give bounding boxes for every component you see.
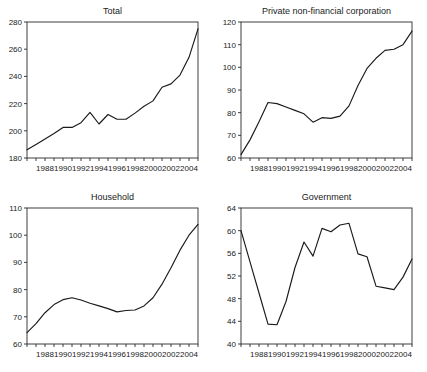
government-ytick-label: 52 — [227, 272, 236, 281]
private-non-financial-corporation-ytick-label: 60 — [227, 154, 236, 163]
household-xtick-label: 2000 — [144, 350, 162, 359]
private-non-financial-corporation-title: Private non-financial corporation — [262, 6, 391, 16]
household-ytick-label: 80 — [13, 286, 22, 295]
household-plot-frame — [27, 208, 198, 344]
total-ytick-label: 180 — [9, 154, 23, 163]
private-non-financial-corporation-ytick-label: 120 — [223, 18, 237, 27]
government-ytick-label: 40 — [227, 340, 236, 349]
household-xtick-label: 1996 — [108, 350, 126, 359]
total-ytick-label: 240 — [9, 72, 23, 81]
total-xtick-label: 1996 — [108, 164, 126, 173]
government-xtick-label: 1998 — [340, 350, 358, 359]
total-xtick-label: 1994 — [90, 164, 108, 173]
private-non-financial-corporation-data-line — [241, 31, 412, 155]
total-xtick-label: 1988 — [36, 164, 54, 173]
private-non-financial-corporation-ytick-label: 80 — [227, 109, 236, 118]
total-ytick-label: 200 — [9, 127, 23, 136]
household-ytick-label: 100 — [9, 231, 23, 240]
government-x-axis: 198819901992199419961998200020022004 — [241, 344, 412, 359]
total-xtick-label: 2002 — [162, 164, 180, 173]
government-y-axis: 40444852566064 — [227, 204, 241, 349]
household-data-line — [27, 224, 198, 332]
government-svg: Government404448525660641988199019921994… — [214, 186, 427, 372]
household-ytick-label: 70 — [13, 313, 22, 322]
household-xtick-label: 1992 — [72, 350, 90, 359]
government-plot-frame — [241, 208, 412, 344]
chart-panel-household: Household6070809010011019881990199219941… — [0, 186, 213, 372]
chart-panel-government: Government404448525660641988199019921994… — [214, 186, 427, 372]
government-ytick-label: 48 — [227, 295, 236, 304]
household-y-axis: 60708090100110 — [9, 204, 27, 349]
household-xtick-label: 1988 — [36, 350, 54, 359]
total-xtick-label: 1990 — [54, 164, 72, 173]
household-xtick-label: 1998 — [126, 350, 144, 359]
private-non-financial-corporation-xtick-label: 2000 — [358, 164, 376, 173]
household-ytick-label: 60 — [13, 340, 22, 349]
total-xtick-label: 1998 — [126, 164, 144, 173]
multi-panel-line-chart-figure: Total18020022024026028019881990199219941… — [0, 0, 427, 372]
government-data-line — [241, 223, 412, 324]
government-xtick-label: 1990 — [268, 350, 286, 359]
private-non-financial-corporation-xtick-label: 1998 — [340, 164, 358, 173]
household-xtick-label: 2004 — [180, 350, 198, 359]
total-data-line — [27, 29, 198, 150]
government-xtick-label: 1992 — [286, 350, 304, 359]
private-non-financial-corporation-xtick-label: 1992 — [286, 164, 304, 173]
private-non-financial-corporation-xtick-label: 1988 — [250, 164, 268, 173]
total-xtick-label: 1992 — [72, 164, 90, 173]
total-ytick-label: 220 — [9, 100, 23, 109]
government-ytick-label: 56 — [227, 249, 236, 258]
private-non-financial-corporation-xtick-label: 1996 — [322, 164, 340, 173]
government-xtick-label: 2000 — [358, 350, 376, 359]
government-title: Government — [302, 192, 352, 202]
total-x-axis: 198819901992199419961998200020022004 — [27, 158, 198, 173]
household-ytick-label: 110 — [9, 204, 22, 213]
chart-panel-private-non-financial-corporation: Private non-financial corporation6070809… — [214, 0, 427, 186]
total-plot-frame — [27, 22, 198, 158]
private-non-financial-corporation-plot-frame — [241, 22, 412, 158]
government-xtick-label: 1994 — [304, 350, 322, 359]
government-ytick-label: 44 — [227, 317, 236, 326]
household-title: Household — [91, 192, 134, 202]
household-xtick-label: 1990 — [54, 350, 72, 359]
private-non-financial-corporation-ytick-label: 110 — [223, 41, 236, 50]
household-svg: Household6070809010011019881990199219941… — [0, 186, 213, 372]
private-non-financial-corporation-ytick-label: 100 — [223, 63, 237, 72]
government-xtick-label: 1996 — [322, 350, 340, 359]
total-xtick-label: 2000 — [144, 164, 162, 173]
private-non-financial-corporation-y-axis: 60708090100110120 — [223, 18, 241, 163]
total-title: Total — [103, 6, 122, 16]
government-xtick-label: 1988 — [250, 350, 268, 359]
private-non-financial-corporation-ytick-label: 70 — [227, 131, 236, 140]
private-non-financial-corporation-ytick-label: 90 — [227, 86, 236, 95]
household-xtick-label: 1994 — [90, 350, 108, 359]
government-ytick-label: 60 — [227, 227, 236, 236]
total-y-axis: 180200220240260280 — [9, 18, 27, 163]
private-non-financial-corporation-xtick-label: 1990 — [268, 164, 286, 173]
chart-panel-total: Total18020022024026028019881990199219941… — [0, 0, 213, 186]
private-non-financial-corporation-xtick-label: 1994 — [304, 164, 322, 173]
private-non-financial-corporation-xtick-label: 2004 — [394, 164, 412, 173]
private-non-financial-corporation-xtick-label: 2002 — [376, 164, 394, 173]
household-ytick-label: 90 — [13, 258, 22, 267]
total-ytick-label: 260 — [9, 45, 23, 54]
government-ytick-label: 64 — [227, 204, 236, 213]
government-xtick-label: 2002 — [376, 350, 394, 359]
total-ytick-label: 280 — [9, 18, 23, 27]
private-non-financial-corporation-x-axis: 198819901992199419961998200020022004 — [241, 158, 412, 173]
private-non-financial-corporation-svg: Private non-financial corporation6070809… — [214, 0, 427, 186]
total-xtick-label: 2004 — [180, 164, 198, 173]
household-xtick-label: 2002 — [162, 350, 180, 359]
government-xtick-label: 2004 — [394, 350, 412, 359]
total-svg: Total18020022024026028019881990199219941… — [0, 0, 213, 186]
household-x-axis: 198819901992199419961998200020022004 — [27, 344, 198, 359]
